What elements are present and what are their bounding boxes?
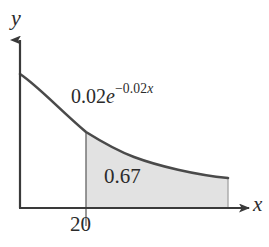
x-tick-value-label: 20 — [70, 214, 91, 235]
area-value-label: 0.67 — [104, 166, 141, 187]
y-axis-label: y — [11, 7, 21, 29]
equation-exponent-sign: − — [115, 81, 123, 96]
equation-exponent-coefficient: 0.02 — [123, 81, 148, 96]
exponential-density-figure: y x 0.02e−0.02x 0.67 20 — [0, 0, 269, 247]
x-axis-label: x — [253, 194, 262, 215]
equation-coefficient: 0.02 — [71, 85, 106, 107]
equation-base: e — [106, 85, 115, 107]
equation-exponent-variable: x — [147, 81, 153, 96]
equation-exponent: −0.02x — [115, 81, 154, 96]
curve-equation-label: 0.02e−0.02x — [71, 84, 154, 106]
plot-canvas — [0, 0, 269, 247]
